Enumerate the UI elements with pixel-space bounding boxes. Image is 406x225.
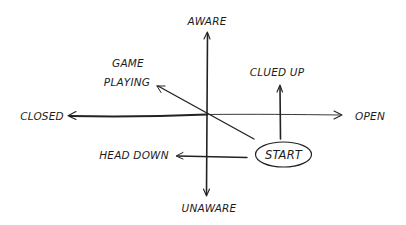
head-down-label: HEAD DOWN (99, 149, 169, 161)
start-node: START (256, 142, 312, 167)
clued-up-arrow (277, 85, 283, 139)
aware-label: AWARE (187, 15, 227, 27)
closed-label: CLOSED (20, 110, 64, 122)
head-down-arrow (176, 153, 247, 160)
game-playing-arrow (157, 86, 254, 139)
playing-label: PLAYING (104, 76, 150, 88)
game-label: GAME (112, 57, 144, 69)
quadrant-diagram: START AWARE UNAWARE CLOSED OPEN CLUED UP… (0, 0, 406, 225)
start-label: START (265, 148, 303, 162)
unaware-label: UNAWARE (182, 202, 237, 214)
open-label: OPEN (355, 110, 385, 122)
clued-up-label: CLUED UP (250, 66, 305, 78)
